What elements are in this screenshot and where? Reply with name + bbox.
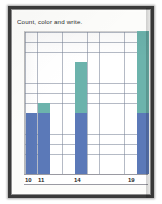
x-axis-tick-label-11: 11 (38, 176, 44, 185)
x-axis-tick-label-19: 19 (128, 176, 135, 185)
bar-segment-blue-14 (75, 113, 87, 174)
x-axis-tick-label-10: 10 (25, 176, 32, 185)
bar-14 (75, 62, 87, 174)
bar-segment-teal-19 (137, 31, 149, 113)
bar-10 (26, 113, 38, 174)
bar-segment-blue-19 (137, 113, 149, 174)
chart-bars (25, 32, 148, 174)
bar-segment-blue-10 (26, 113, 38, 174)
x-axis-tick-label-14: 14 (74, 176, 81, 185)
bar-19 (137, 31, 149, 174)
bar-segment-blue-11 (38, 113, 50, 174)
bar-11 (38, 103, 50, 175)
worksheet-screenshot: Count, color and write. 10111419 (0, 0, 162, 204)
chart-plot-area (24, 31, 148, 174)
page-title: Count, color and write. (17, 17, 143, 27)
x-axis-label-strip: 10111419 (24, 174, 148, 185)
bar-segment-teal-11 (38, 103, 50, 113)
bar-segment-teal-14 (75, 62, 87, 113)
